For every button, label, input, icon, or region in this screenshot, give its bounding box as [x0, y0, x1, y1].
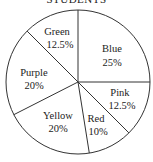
slice-label-name: Pink — [110, 87, 130, 98]
slice-red: Red 10% — [88, 113, 108, 137]
pie-chart: Blue 25% Pink 12.5% Red 10% Yellow 20% P… — [0, 0, 153, 162]
slice-label-name: Green — [44, 26, 70, 37]
slice-label-name: Purple — [20, 67, 48, 78]
slice-blue: Blue 25% — [102, 43, 122, 68]
slice-yellow: Yellow 20% — [43, 110, 73, 134]
slice-label-pct: 25% — [102, 57, 122, 68]
slice-label-pct: 12.5% — [46, 39, 73, 50]
slice-label-name: Blue — [102, 43, 122, 54]
slice-pink: Pink 12.5% — [108, 87, 135, 111]
slice-label-name: Yellow — [43, 110, 73, 121]
slice-label-name: Red — [88, 113, 106, 124]
slice-label-pct: 20% — [24, 80, 44, 91]
slice-label-pct: 12.5% — [108, 100, 135, 111]
slice-label-pct: 10% — [88, 126, 108, 137]
slice-purple: Purple 20% — [20, 67, 48, 91]
slice-green: Green 12.5% — [44, 26, 74, 50]
slice-label-pct: 20% — [48, 123, 68, 134]
